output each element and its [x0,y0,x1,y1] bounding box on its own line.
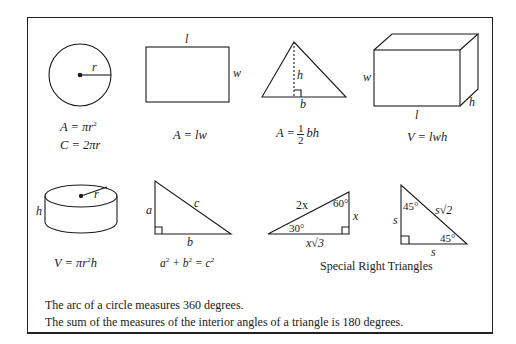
geometry-figures [0,0,516,344]
right-triangle-a-label: a [146,203,152,218]
triangle-45-horizontal-leg-label: s [431,245,436,260]
cylinder-height-label: h [36,204,42,219]
prism-height-label: h [469,95,475,110]
prism-length-label: l [415,108,418,123]
triangle-figure [262,42,346,97]
triangle-60-angle-label: 60° [333,197,348,209]
cylinder-volume-formula: V = πr2h [54,256,97,271]
rectangle-area-formula: A = lw [173,128,207,143]
prism-width-label: w [363,70,371,85]
triangle-30-60-90-long-leg-label: x√3 [306,236,324,251]
triangle-base-label: b [300,97,306,112]
cylinder-figure [45,185,117,233]
cylinder-radius-label: r [94,187,99,202]
rectangular-prism-figure [374,34,478,106]
note-triangle-angle-sum: The sum of the measures of the interior … [45,315,403,330]
note-arc-of-circle: The arc of a circle measures 360 degrees… [45,298,244,313]
triangle-30-60-90-hypotenuse-label: 2x [296,198,308,213]
pythagorean-formula: a2 + b2 = c2 [160,256,214,269]
triangle-45-vertical-leg-label: s [393,213,398,228]
triangle-height-label: h [297,68,303,83]
triangle-45-right-angle-label: 45° [440,232,455,244]
triangle-30-60-90-short-leg-label: x [353,209,358,224]
circle-circumference-formula: C = 2πr [60,138,100,153]
triangle-30-angle-label: 30° [289,222,304,234]
triangle-area-formula: A =12bh [276,123,319,146]
rectangle-figure [146,47,229,102]
triangle-45-top-angle-label: 45° [403,200,418,212]
triangle-45-45-90-figure [401,185,467,244]
triangle-45-hypotenuse-label: s√2 [435,203,452,218]
circle-radius-label: r [92,60,97,75]
rectangle-width-label: w [233,66,241,81]
special-right-triangles-caption: Special Right Triangles [320,259,433,274]
circle-figure [49,44,111,106]
right-triangle-b-label: b [187,235,193,250]
rectangle-length-label: l [185,32,188,47]
right-triangle-c-label: c [194,196,199,211]
right-triangle-figure [155,181,231,234]
prism-volume-formula: V = lwh [407,130,447,145]
circle-area-formula: A = πr2 [60,120,97,135]
